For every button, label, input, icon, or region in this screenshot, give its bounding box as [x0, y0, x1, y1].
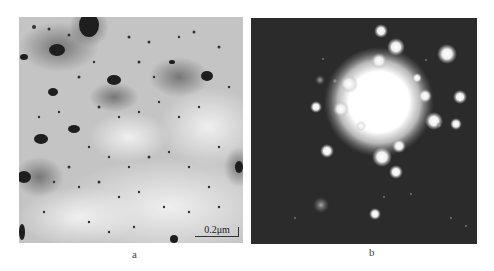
- diffraction-pattern-panel: [251, 18, 477, 244]
- scale-bar: 0.2μm: [195, 224, 239, 237]
- micrograph-image: [19, 17, 243, 243]
- scale-bar-tick: [238, 227, 239, 237]
- panel-b-caption: b: [369, 246, 375, 258]
- scale-bar-line: [195, 236, 239, 237]
- tem-micrograph-panel: 0.2μm: [19, 17, 243, 243]
- scale-bar-label: 0.2μm: [204, 224, 230, 235]
- panel-a-caption: a: [132, 248, 137, 260]
- diffraction-image: [251, 18, 477, 244]
